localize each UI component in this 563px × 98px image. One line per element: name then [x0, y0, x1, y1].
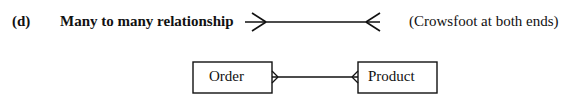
entity-label-product: Product [368, 68, 415, 85]
crowsfoot-legend-line [245, 13, 380, 31]
relationship-line [272, 71, 358, 83]
relationship-diagram [0, 0, 563, 98]
entity-label-order: Order [209, 68, 244, 85]
